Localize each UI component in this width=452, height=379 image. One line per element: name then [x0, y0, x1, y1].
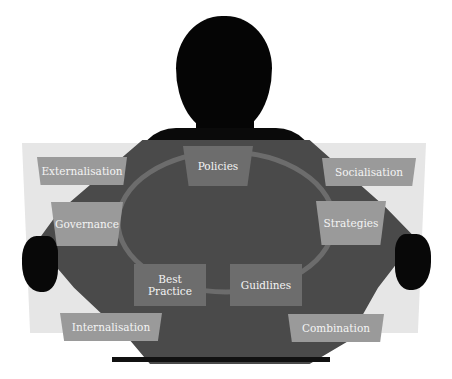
internalisation-label: Internalisation [72, 321, 150, 333]
socialisation-label: Socialisation [335, 166, 403, 178]
strategies-box: Strategies [316, 201, 386, 245]
internalisation-box: Internalisation [60, 313, 162, 341]
best-practice-box: Best Practice [134, 264, 206, 306]
left-hand-silhouette [22, 236, 58, 292]
externalisation-box: Externalisation [37, 157, 127, 185]
guidlines-box: Guidlines [230, 264, 302, 306]
policies-label: Policies [198, 160, 239, 172]
best-practice-label-line1: Best [158, 273, 182, 285]
governance-label: Governance [55, 218, 119, 230]
strategies-label: Strategies [324, 217, 379, 229]
right-hand-silhouette [395, 234, 431, 290]
diagram-stage: Externalisation Socialisation Governance… [0, 0, 452, 379]
socialisation-box: Socialisation [322, 158, 416, 186]
externalisation-label: Externalisation [41, 165, 122, 177]
best-practice-label-line2: Practice [148, 285, 192, 297]
combination-label: Combination [302, 322, 370, 334]
policies-box: Policies [183, 146, 253, 186]
torso-base-shadow [112, 357, 330, 362]
combination-box: Combination [288, 314, 384, 342]
governance-box: Governance [51, 202, 123, 246]
guidlines-label: Guidlines [241, 279, 291, 291]
